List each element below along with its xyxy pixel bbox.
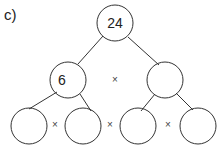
level3-node-2[interactable] xyxy=(65,108,101,144)
times-symbol-level2: × xyxy=(112,74,118,85)
level2-left-value: 6 xyxy=(58,72,66,88)
level3-node-4[interactable] xyxy=(180,108,216,144)
level3-node-1[interactable] xyxy=(11,108,47,144)
edge-right-rr xyxy=(176,93,193,110)
times-symbol-level3-2: × xyxy=(107,119,113,130)
times-symbol-level3-3: × xyxy=(165,119,171,130)
level3-node-3[interactable] xyxy=(120,108,156,144)
edge-root-right xyxy=(128,37,159,65)
edge-left-ll xyxy=(29,92,57,109)
factor-tree: 24 6 × × × × xyxy=(0,0,217,149)
level2-node-right[interactable] xyxy=(147,62,183,98)
times-symbol-level3-1: × xyxy=(52,119,58,130)
level2-node-left xyxy=(50,62,86,98)
root-value: 24 xyxy=(107,15,123,31)
edge-root-left xyxy=(78,36,103,64)
